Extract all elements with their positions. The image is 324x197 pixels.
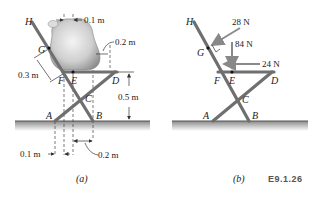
pin-E-a <box>71 70 74 73</box>
dim-top-text: 0.1 m <box>84 15 105 25</box>
label-G-b: G <box>197 47 204 58</box>
label-C-a: C <box>85 93 92 104</box>
dim-height-text: 0.5 m <box>118 92 139 102</box>
label-C-b: C <box>242 94 249 105</box>
label-E-a: E <box>70 75 77 86</box>
dim-bag-text: 0.2 m <box>115 37 136 47</box>
label-A-b: A <box>202 110 210 121</box>
caption-a: (a) <box>76 173 88 185</box>
pin-G-a <box>47 46 50 49</box>
label-E-b: E <box>228 75 235 86</box>
ground-a <box>15 121 150 131</box>
label-B-b: B <box>252 110 258 121</box>
bag-knot <box>48 21 58 28</box>
caption-b: (b) <box>233 173 245 185</box>
label-B-a: B <box>96 110 102 121</box>
ground-b <box>172 121 308 131</box>
label-D-a: D <box>111 75 120 86</box>
pin-G-b <box>206 46 209 49</box>
figure-code: E9.1.26 <box>268 174 303 184</box>
pin-E-b <box>230 70 233 73</box>
label-H-b: H <box>185 16 194 27</box>
dim-bottom-left-text: 0.1 m <box>20 149 41 159</box>
chair-equilibrium-diagram: H G F E D C A B 0.1 m 0.2 m 0.3 m <box>0 0 324 197</box>
label-F-b: F <box>213 75 221 86</box>
dim-leg-text: 0.3 m <box>18 70 39 80</box>
label-H-a: H <box>24 16 33 27</box>
dim-bottom-0.2 <box>74 141 98 155</box>
label-D-b: D <box>270 75 279 86</box>
figure-b: 28 N 84 N 24 N H G F E D C A B (b) <box>172 16 308 185</box>
force-84N-label: 84 N <box>235 39 253 49</box>
figure-a: H G F E D C A B 0.1 m 0.2 m 0.3 m <box>15 14 150 185</box>
force-24N-label: 24 N <box>262 59 280 69</box>
dim-bottom-right-text: 0.2 m <box>98 150 119 160</box>
right-angle-mark <box>212 45 220 52</box>
chair-members-b <box>194 22 274 121</box>
force-28N-label: 28 N <box>232 17 250 27</box>
label-A-a: A <box>45 110 53 121</box>
